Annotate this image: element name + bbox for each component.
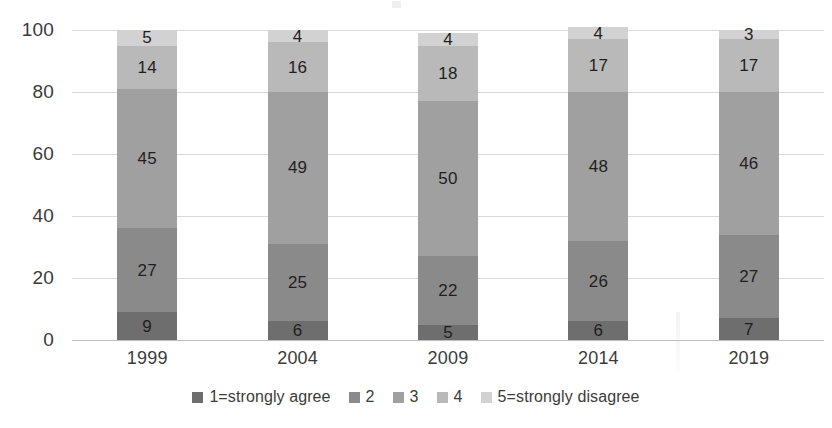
x-tick-label: 2004	[238, 348, 358, 369]
bar-segment-label: 46	[739, 155, 758, 172]
bars-layer: 9274514562549164522501846264817472746173	[72, 30, 824, 340]
bar-segment[interactable]: 49	[268, 92, 328, 244]
bar-segment[interactable]: 4	[268, 30, 328, 42]
bar-segment-label: 4	[443, 31, 453, 48]
bar-segment-label: 26	[589, 273, 608, 290]
legend-item[interactable]: 4	[437, 388, 463, 406]
bar-segment[interactable]: 25	[268, 244, 328, 322]
x-tick-label: 2014	[538, 348, 658, 369]
bar-segment-label: 22	[438, 282, 457, 299]
bar-segment[interactable]: 9	[117, 312, 177, 340]
legend-item[interactable]: 1=strongly agree	[192, 388, 330, 406]
x-tick-label: 1999	[87, 348, 207, 369]
bar-segment-label: 9	[142, 318, 152, 335]
y-tick-label: 60	[32, 143, 54, 165]
bar-segment[interactable]: 18	[418, 46, 478, 102]
legend-label: 2	[366, 388, 375, 406]
bar-segment-label: 4	[594, 25, 604, 42]
bar-segment-label: 5	[443, 324, 453, 341]
bar-segment[interactable]: 14	[117, 46, 177, 89]
bar-segment[interactable]: 45	[117, 89, 177, 229]
bar-stack: 72746173	[719, 30, 779, 340]
x-tick-label: 2019	[689, 348, 809, 369]
stacked-bar-chart: 020406080100 927451456254916452250184626…	[0, 0, 832, 428]
x-tick-label: 2009	[388, 348, 508, 369]
bar-segment[interactable]: 7	[719, 318, 779, 340]
legend-swatch-icon	[393, 392, 404, 403]
bar-segment[interactable]: 16	[268, 42, 328, 92]
bar-segment[interactable]: 4	[568, 27, 628, 39]
bar-segment-label: 17	[589, 57, 608, 74]
bar-segment[interactable]: 22	[418, 256, 478, 324]
bar-segment[interactable]: 6	[568, 321, 628, 340]
bar-segment-label: 50	[438, 170, 457, 187]
y-tick-label: 80	[32, 81, 54, 103]
bar-segment-label: 27	[138, 262, 157, 279]
bar-segment[interactable]: 4	[418, 33, 478, 45]
bar-segment-label: 6	[594, 322, 604, 339]
y-tick-label: 0	[43, 329, 54, 351]
bar-segment-label: 6	[293, 322, 303, 339]
legend-swatch-icon	[481, 392, 492, 403]
bar-group-2004[interactable]: 62549164	[268, 30, 328, 340]
bar-segment-label: 49	[288, 159, 307, 176]
bar-segment[interactable]: 48	[568, 92, 628, 241]
bar-segment[interactable]: 17	[568, 39, 628, 92]
y-tick-label: 20	[32, 267, 54, 289]
bar-segment[interactable]: 27	[117, 228, 177, 312]
bar-group-1999[interactable]: 92745145	[117, 30, 177, 340]
legend-swatch-icon	[192, 392, 203, 403]
bar-segment-label: 17	[739, 57, 758, 74]
bar-segment-label: 5	[142, 29, 152, 46]
y-tick-label: 100	[22, 19, 54, 41]
bar-group-2019[interactable]: 72746173	[719, 30, 779, 340]
bar-stack: 92745145	[117, 30, 177, 340]
x-axis: 19992004200920142019	[72, 348, 824, 376]
bar-segment[interactable]: 46	[719, 92, 779, 235]
bar-stack: 62648174	[568, 30, 628, 340]
legend-item[interactable]: 3	[393, 388, 419, 406]
legend-label: 3	[410, 388, 419, 406]
legend-label: 5=strongly disagree	[498, 388, 640, 406]
bar-stack: 62549164	[268, 30, 328, 340]
bar-segment-label: 16	[288, 59, 307, 76]
legend-item[interactable]: 5=strongly disagree	[481, 388, 640, 406]
legend-item[interactable]: 2	[349, 388, 375, 406]
legend-label: 1=strongly agree	[209, 388, 330, 406]
bar-segment[interactable]: 3	[719, 30, 779, 39]
bar-segment[interactable]: 17	[719, 39, 779, 92]
bar-segment-label: 25	[288, 274, 307, 291]
bar-group-2014[interactable]: 62648174	[568, 30, 628, 340]
bar-segment-label: 7	[744, 321, 754, 338]
bar-segment[interactable]: 26	[568, 241, 628, 322]
bar-segment-label: 45	[138, 150, 157, 167]
bar-group-2009[interactable]: 52250184	[418, 30, 478, 340]
legend-label: 4	[454, 388, 463, 406]
bar-segment-label: 3	[744, 26, 754, 43]
bar-segment-label: 4	[293, 28, 303, 45]
bar-stack: 52250184	[418, 30, 478, 340]
scan-artifact-top	[392, 1, 401, 8]
bar-segment-label: 18	[438, 65, 457, 82]
bar-segment-label: 48	[589, 158, 608, 175]
y-tick-label: 40	[32, 205, 54, 227]
bar-segment[interactable]: 50	[418, 101, 478, 256]
bar-segment[interactable]: 6	[268, 321, 328, 340]
bar-segment-label: 14	[138, 59, 157, 76]
bar-segment-label: 27	[739, 268, 758, 285]
bar-segment[interactable]: 5	[117, 30, 177, 46]
legend-swatch-icon	[437, 392, 448, 403]
legend-swatch-icon	[349, 392, 360, 403]
y-axis: 020406080100	[0, 30, 62, 340]
chart-legend: 1=strongly agree2345=strongly disagree	[0, 388, 832, 406]
bar-segment[interactable]: 5	[418, 325, 478, 341]
bar-segment[interactable]: 27	[719, 235, 779, 319]
